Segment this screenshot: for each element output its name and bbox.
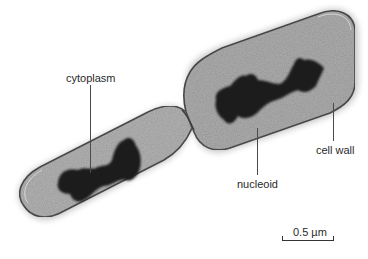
bacterium-image <box>0 0 368 259</box>
label-cytoplasm: cytoplasm <box>66 72 116 84</box>
cytoplasm-leader-line <box>90 85 91 173</box>
scale-bar-tick-left <box>282 236 283 240</box>
micrograph-figure: cytoplasm nucleoid cell wall 0.5 µm <box>0 0 368 259</box>
cell-lower-left <box>20 106 192 217</box>
nucleoid-leader-line <box>257 128 258 175</box>
cell-wall-leader-line <box>333 103 334 141</box>
label-cell-wall: cell wall <box>316 144 355 156</box>
scale-bar-label: 0.5 µm <box>293 226 327 238</box>
scale-bar-tick-right <box>333 236 334 240</box>
scale-bar <box>282 240 334 241</box>
label-nucleoid: nucleoid <box>237 178 278 190</box>
cell-upper-right <box>184 11 355 150</box>
